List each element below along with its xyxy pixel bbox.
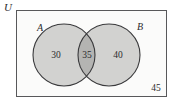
region-value-b-only: 40 bbox=[107, 50, 129, 61]
region-value-a-only: 30 bbox=[45, 50, 67, 61]
set-label-b: B bbox=[137, 21, 143, 32]
set-label-a: A bbox=[37, 22, 43, 33]
region-value-outside: 45 bbox=[145, 83, 167, 94]
region-value-intersection: 35 bbox=[76, 50, 98, 61]
universal-set-label: U bbox=[4, 1, 12, 13]
venn-diagram-figure: U A B 30 35 40 45 bbox=[0, 0, 173, 105]
